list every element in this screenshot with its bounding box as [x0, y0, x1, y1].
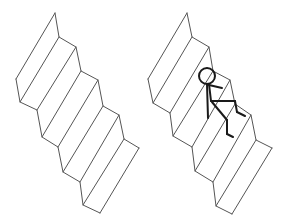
stair-edge	[63, 106, 103, 172]
stair-edge	[83, 139, 124, 205]
stair-edge	[58, 80, 98, 147]
stair-edge	[192, 80, 230, 147]
stair-edge	[170, 47, 209, 113]
figure-limb	[237, 112, 245, 116]
figure-limb	[207, 84, 208, 118]
stair-edge	[232, 148, 272, 214]
stair-edge	[195, 104, 235, 171]
stair-edge	[20, 37, 59, 102]
staircase-diagram	[0, 0, 287, 223]
stair-edge	[16, 13, 55, 79]
stair-edge	[216, 140, 256, 206]
figure-limb	[209, 84, 211, 101]
stair-right-profile	[55, 13, 139, 148]
staircase-empty	[16, 13, 139, 213]
stair-edge	[153, 37, 192, 103]
figure-limb	[212, 102, 227, 120]
figure-limb	[235, 101, 237, 112]
stair-left-profile	[16, 79, 100, 213]
stair-edge	[148, 13, 187, 79]
stair-edge	[100, 148, 139, 213]
figure-limb	[209, 85, 222, 88]
figure-limb	[227, 134, 233, 137]
stair-edge	[37, 47, 76, 110]
stair-edge	[213, 115, 251, 182]
stair-edge	[80, 115, 119, 182]
stair-edge	[42, 71, 81, 137]
staircase-with-stick-figure	[148, 13, 272, 214]
